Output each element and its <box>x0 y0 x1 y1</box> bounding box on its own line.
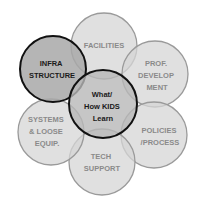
label-facilities: FACILITIES <box>84 41 124 50</box>
venn-flower-diagram: FACILITIES PROF. DEVELOP MENT POLICIES /… <box>0 0 201 213</box>
